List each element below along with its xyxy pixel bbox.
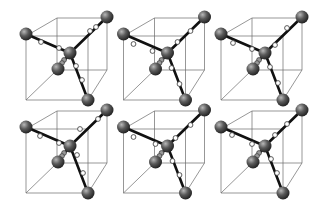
small-atom bbox=[80, 78, 85, 83]
small-atom bbox=[230, 133, 235, 138]
cube-cell-r1c3 bbox=[215, 11, 309, 107]
small-atom bbox=[177, 173, 182, 178]
bond-corner-back-top-right bbox=[168, 110, 205, 146]
cube-cell-r1c1 bbox=[20, 11, 114, 107]
atom-center bbox=[161, 140, 174, 153]
bond-corner-back-top-right bbox=[265, 17, 302, 53]
small-atom bbox=[275, 171, 280, 176]
atom-corner-back-top-right bbox=[296, 104, 309, 117]
small-atom bbox=[188, 123, 193, 128]
small-atom bbox=[250, 47, 255, 52]
small-atom bbox=[57, 141, 62, 146]
bond-corner-front-top-left bbox=[221, 127, 265, 146]
bond-corner-front-top-left bbox=[124, 127, 168, 146]
atom-corner-front-top-left bbox=[215, 121, 228, 134]
bond-corner-front-bottom-right bbox=[168, 53, 186, 100]
small-atom bbox=[150, 49, 155, 54]
small-atom bbox=[57, 46, 62, 51]
atom-corner-back-bottom-left bbox=[52, 63, 65, 76]
atom-corner-back-top-right bbox=[101, 104, 114, 117]
small-atom bbox=[94, 25, 99, 30]
atom-corner-back-top-right bbox=[101, 11, 114, 24]
bond-corner-back-top-right bbox=[168, 17, 205, 53]
small-atom bbox=[169, 66, 174, 71]
atom-center bbox=[259, 47, 272, 60]
bond-corner-front-top-left bbox=[26, 127, 70, 146]
atom-corner-back-top-right bbox=[198, 104, 211, 117]
small-atom bbox=[153, 142, 158, 147]
atom-center bbox=[64, 47, 77, 60]
atom-corner-back-bottom-left bbox=[247, 156, 260, 169]
atom-corner-front-top-left bbox=[117, 121, 130, 134]
bond-corner-front-top-left bbox=[26, 34, 70, 53]
atom-corner-front-top-left bbox=[20, 121, 33, 134]
atom-corner-back-bottom-left bbox=[52, 156, 65, 169]
small-atom bbox=[96, 117, 101, 122]
cube-cell-r2c2 bbox=[117, 104, 211, 200]
bond-corner-front-top-left bbox=[221, 34, 265, 53]
small-atom bbox=[273, 133, 278, 138]
cube-cell-r1c2 bbox=[117, 11, 211, 107]
atom-corner-front-top-left bbox=[20, 28, 33, 41]
small-atom bbox=[188, 29, 193, 34]
small-atom bbox=[269, 157, 274, 162]
atom-corner-back-bottom-left bbox=[149, 156, 162, 169]
atom-corner-back-top-right bbox=[198, 11, 211, 24]
atom-center bbox=[161, 47, 174, 60]
small-atom bbox=[250, 142, 255, 147]
small-atom bbox=[285, 26, 290, 31]
bond-corner-front-bottom-right bbox=[168, 146, 186, 193]
small-atom bbox=[78, 127, 83, 132]
bond-corner-front-bottom-right bbox=[70, 53, 88, 100]
bonds bbox=[124, 110, 205, 193]
bond-corner-front-bottom-right bbox=[265, 146, 283, 193]
small-atom bbox=[285, 122, 290, 127]
atom-corner-front-bottom-right bbox=[179, 187, 192, 200]
small-atom bbox=[173, 136, 178, 141]
atom-corner-back-top-right bbox=[296, 11, 309, 24]
bond-corner-front-top-left bbox=[124, 34, 168, 53]
small-atom bbox=[81, 171, 86, 176]
small-atom bbox=[38, 134, 43, 139]
atom-corner-front-top-left bbox=[215, 28, 228, 41]
small-atom bbox=[39, 40, 44, 45]
small-atom bbox=[75, 153, 80, 158]
bond-corner-back-top-right bbox=[70, 17, 107, 53]
cube-grid bbox=[20, 11, 309, 200]
atom-center bbox=[259, 140, 272, 153]
bond-corner-back-top-right bbox=[265, 110, 302, 146]
cube-cell-r2c3 bbox=[215, 104, 309, 200]
small-atom bbox=[131, 42, 136, 47]
atom-corner-front-top-left bbox=[117, 28, 130, 41]
small-atom bbox=[175, 40, 180, 45]
bond-corner-back-top-right bbox=[70, 110, 107, 146]
small-atom bbox=[88, 29, 93, 34]
molecular-cubes-figure bbox=[0, 0, 321, 208]
atom-corner-front-bottom-right bbox=[179, 94, 192, 107]
atom-corner-front-bottom-right bbox=[277, 187, 290, 200]
atom-corner-front-bottom-right bbox=[82, 187, 95, 200]
small-atom bbox=[273, 43, 278, 48]
cube-cell-r2c1 bbox=[20, 104, 114, 200]
bond-corner-front-bottom-right bbox=[265, 53, 283, 100]
atom-corner-front-bottom-right bbox=[277, 94, 290, 107]
atom-center bbox=[64, 140, 77, 153]
bonds bbox=[26, 110, 107, 193]
atom-corner-back-bottom-left bbox=[247, 63, 260, 76]
atom-corner-front-bottom-right bbox=[82, 94, 95, 107]
small-atom bbox=[177, 82, 182, 87]
small-atom bbox=[276, 81, 281, 86]
atom-corner-back-bottom-left bbox=[149, 63, 162, 76]
bonds bbox=[221, 110, 302, 193]
small-atom bbox=[268, 65, 273, 70]
small-atom bbox=[74, 64, 79, 69]
small-atom bbox=[131, 135, 136, 140]
small-atom bbox=[170, 159, 175, 164]
small-atom bbox=[231, 41, 236, 46]
bonds bbox=[221, 17, 302, 100]
